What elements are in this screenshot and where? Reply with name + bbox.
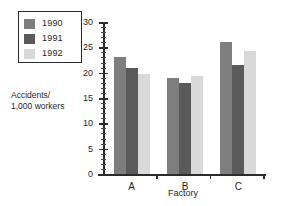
y-tick-minor	[101, 27, 106, 28]
bar-A-1990	[114, 57, 126, 174]
y-tick-major: 10	[99, 123, 108, 125]
y-tick-minor	[101, 83, 106, 84]
x-tick	[156, 174, 158, 179]
y-tick-minor	[101, 32, 106, 33]
y-tick-minor	[101, 108, 106, 109]
x-tick	[210, 174, 212, 179]
y-tick-label: 10	[83, 119, 93, 128]
y-tick-label: 25	[83, 43, 93, 52]
y-tick-minor	[101, 37, 106, 38]
y-tick-minor	[101, 169, 106, 170]
bar-B-1992	[191, 76, 203, 174]
y-tick-minor	[101, 103, 106, 104]
y-tick-major: 30	[99, 22, 108, 24]
legend-item-1990: 1990	[24, 16, 81, 31]
bar-C-1992	[244, 51, 256, 174]
y-tick-minor	[101, 88, 106, 89]
y-tick-minor	[101, 144, 106, 145]
y-axis-title-line2: 1,000 workers	[11, 101, 89, 112]
legend-label-1992: 1992	[42, 49, 63, 58]
y-tick-major: 25	[99, 47, 108, 49]
y-tick-minor	[101, 133, 106, 134]
y-tick-major: 15	[99, 98, 108, 100]
plot-area: 051015202530 ABC	[103, 22, 263, 174]
bar-A-1991	[126, 68, 138, 174]
y-tick-label: 15	[83, 94, 93, 103]
bar-B-1990	[167, 78, 179, 174]
y-tick-minor	[101, 118, 106, 119]
y-tick-minor	[101, 57, 106, 58]
y-tick-label: 20	[83, 69, 93, 78]
y-tick-label: 30	[83, 18, 93, 27]
bar-B-1991	[179, 83, 191, 174]
y-tick-minor	[101, 42, 106, 43]
y-tick-minor	[101, 128, 106, 129]
legend-item-1992: 1992	[24, 46, 81, 61]
y-tick-label: 0	[88, 170, 93, 179]
y-tick-minor	[101, 164, 106, 165]
legend-item-1991: 1991	[24, 31, 81, 46]
x-axis-line	[98, 174, 266, 176]
y-tick-major: 0	[99, 174, 108, 176]
y-tick-minor	[101, 159, 106, 160]
y-tick-minor	[101, 93, 106, 94]
chart-legend: 1990 1991 1992	[18, 11, 82, 63]
y-tick-minor	[101, 113, 106, 114]
y-tick-label: 5	[88, 145, 93, 154]
legend-label-1990: 1990	[42, 19, 63, 28]
x-axis-title: Factory	[103, 189, 263, 198]
y-tick-minor	[101, 78, 106, 79]
y-tick-minor	[101, 52, 106, 53]
legend-swatch-1991	[24, 34, 35, 44]
y-tick-minor	[101, 63, 106, 64]
y-tick-minor	[101, 68, 106, 69]
bar-C-1991	[232, 65, 244, 174]
y-tick-major: 20	[99, 73, 108, 75]
bar-A-1992	[138, 74, 150, 174]
bar-C-1990	[220, 42, 232, 174]
bar-chart: 1990 1991 1992 Accidents/ 1,000 workers …	[0, 0, 305, 206]
y-axis-title: Accidents/ 1,000 workers	[11, 90, 89, 112]
legend-swatch-1990	[24, 19, 35, 29]
x-tick	[263, 174, 265, 179]
y-tick-major: 5	[99, 149, 108, 151]
y-axis-title-line1: Accidents/	[11, 90, 89, 101]
y-tick-minor	[101, 139, 106, 140]
y-tick-minor	[101, 154, 106, 155]
legend-swatch-1992	[24, 49, 35, 59]
legend-label-1991: 1991	[42, 34, 63, 43]
